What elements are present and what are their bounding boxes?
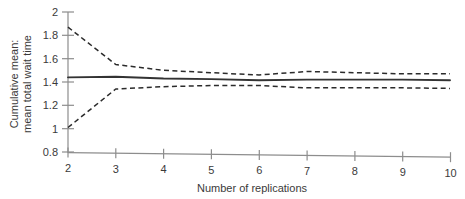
y-tick-label: 2 [52, 6, 58, 18]
x-tick-label: 10 [444, 167, 456, 179]
series-line-cumulative-mean [68, 77, 450, 81]
x-tick-label: 4 [161, 163, 167, 175]
chart-figure: Cumulative mean: mean total wait time 2 … [0, 0, 465, 199]
x-tick-label: 7 [304, 165, 310, 177]
series-layer [68, 27, 450, 127]
y-tick-label: 1.6 [43, 53, 58, 65]
y-tick-label: 0.8 [43, 146, 58, 158]
x-tick-label: 8 [352, 165, 358, 177]
cumulative-mean-line-chart: Cumulative mean: mean total wait time 2 … [0, 0, 465, 199]
x-axis-title: Number of replications [197, 182, 308, 194]
y-axis-title-line1: Cumulative mean: [8, 40, 20, 129]
x-tick-label: 5 [208, 164, 214, 176]
x-tick-label: 2 [65, 162, 71, 174]
x-tick-label: 6 [256, 164, 262, 176]
y-tick-label: 1 [52, 123, 58, 135]
y-axis-title: Cumulative mean: mean total wait time [8, 35, 33, 133]
x-axis: 2 3 4 5 6 7 8 9 10 [65, 148, 457, 179]
y-tick-label: 1.4 [43, 76, 58, 88]
x-tick-label: 9 [400, 166, 406, 178]
series-line-lower-confidence-limit [68, 86, 450, 128]
y-tick-label: 1.2 [43, 99, 58, 111]
x-tick-label: 3 [113, 163, 119, 175]
series-line-upper-confidence-limit [68, 27, 450, 75]
y-tick-label: 1.8 [43, 29, 58, 41]
y-axis-title-line2: mean total wait time [21, 35, 33, 133]
